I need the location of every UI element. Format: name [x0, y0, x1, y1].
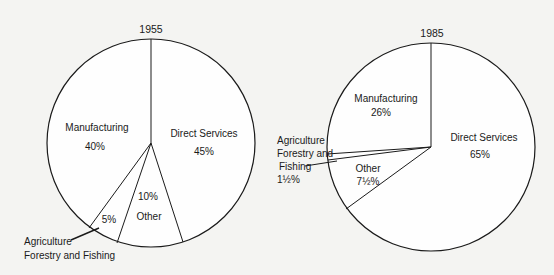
- agriculture-label-line2: Forestry and: [277, 148, 333, 159]
- pie-charts: 1955 Manufacturing 40% Direct Services 4…: [0, 0, 554, 275]
- direct-services-pct: 45%: [194, 146, 214, 157]
- pie-chart-1985: 1985 Manufacturing 26% Direct Services 6…: [277, 27, 535, 251]
- manufacturing-pct: 40%: [85, 141, 105, 152]
- manufacturing-label: Manufacturing: [354, 93, 417, 104]
- agriculture-label-line1: Agriculture: [24, 236, 72, 247]
- direct-services-label: Direct Services: [170, 128, 237, 139]
- leader-line: [71, 228, 99, 240]
- other-label: Other: [355, 163, 381, 174]
- agriculture-label-line2: Forestry and Fishing: [24, 250, 115, 261]
- agriculture-pct: 1½%: [277, 174, 300, 185]
- pie-chart-1955: 1955 Manufacturing 40% Direct Services 4…: [24, 23, 255, 261]
- other-pct: 7½%: [357, 176, 380, 187]
- year-label: 1955: [139, 23, 163, 35]
- manufacturing-label: Manufacturing: [65, 122, 128, 133]
- agriculture-pct: 5%: [102, 214, 117, 225]
- manufacturing-pct: 26%: [371, 107, 391, 118]
- agriculture-label-line1: Agriculture: [277, 135, 325, 146]
- direct-services-label: Direct Services: [450, 132, 517, 143]
- other-label: Other: [136, 211, 162, 222]
- agriculture-label-line3: Fishing: [279, 161, 311, 172]
- year-label: 1985: [420, 27, 444, 39]
- other-pct: 10%: [138, 191, 158, 202]
- direct-services-pct: 65%: [470, 149, 490, 160]
